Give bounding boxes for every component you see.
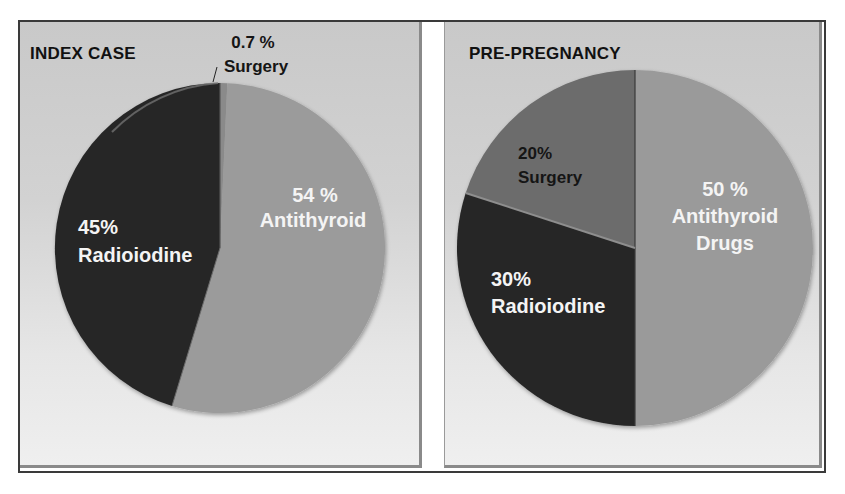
label-drugs-right: Drugs <box>670 230 780 256</box>
label-antithyroid-pct: 54 % <box>250 182 380 208</box>
label-surgery-pct: 0.7 % <box>218 31 288 55</box>
label-surgery-pct-right: 20% <box>518 142 578 166</box>
label-antithyroid: Antithyroid <box>243 207 383 233</box>
label-radioiodine-pct-right: 30% <box>491 266 551 292</box>
label-surgery: Surgery <box>218 55 294 79</box>
label-antithyroid-pct-right: 50 % <box>670 176 780 202</box>
label-radioiodine: Radioiodine <box>78 242 208 268</box>
surgery-leader-line <box>213 67 217 82</box>
label-radioiodine-pct: 45% <box>78 214 118 240</box>
label-surgery-right: Surgery <box>518 166 598 190</box>
label-antithyroid-right: Antithyroid <box>650 203 800 229</box>
label-radioiodine-right: Radioiodine <box>491 293 631 319</box>
